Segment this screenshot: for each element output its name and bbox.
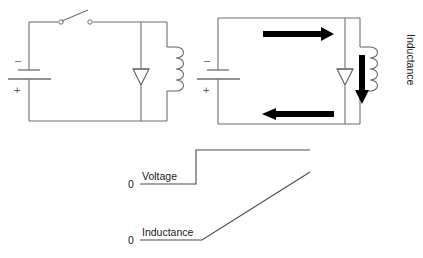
figure-canvas: – + [0, 0, 423, 258]
circuit-left: – + [8, 10, 184, 121]
switch-lever [62, 10, 88, 21]
waveform-inductance: 0 Inductance [128, 172, 310, 246]
right-inductor-coil [370, 47, 378, 91]
diode-triangle [133, 69, 149, 85]
right-battery-negative-sign: – [204, 54, 211, 66]
switch-terminal-right [88, 20, 92, 24]
voltage-label: Voltage [142, 170, 177, 182]
inductor-coil [176, 47, 184, 91]
circuit-right: – + [197, 18, 417, 124]
waveform-voltage: 0 Voltage [128, 150, 310, 190]
diagram-svg: – + [0, 0, 423, 258]
voltage-zero-label: 0 [128, 178, 134, 190]
inductance-zero-label: 0 [128, 234, 134, 246]
inductance-waveform-label: Inductance [142, 226, 194, 238]
inductance-vertical-label: Inductance [405, 34, 417, 86]
battery-positive-sign: + [14, 84, 20, 96]
inductor-current-arrow [355, 55, 369, 104]
right-battery-positive-sign: + [203, 84, 209, 96]
battery-negative-sign: – [15, 54, 22, 66]
top-current-arrow [263, 27, 334, 41]
bottom-current-arrow [262, 108, 334, 120]
right-diode-triangle [337, 69, 353, 85]
